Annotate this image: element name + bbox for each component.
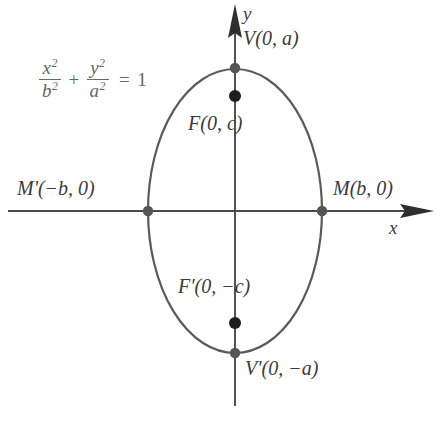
fraction-x-over-b: x2 b2: [39, 58, 61, 102]
denominator-b-exponent: 2: [52, 80, 58, 93]
point-co-vertex-left: [143, 206, 153, 216]
denominator-a: a2: [87, 79, 109, 101]
denominator-b: b2: [39, 79, 61, 101]
point-vertex-bottom: [230, 348, 240, 358]
point-co-vertex-right: [317, 206, 327, 216]
ellipse-equation: x2 b2 + y2 a2 = 1: [38, 58, 147, 102]
equals-sign: =: [119, 69, 130, 91]
equation-right-hand-side: 1: [137, 69, 147, 91]
label-vertex-bottom: V'(0, −a): [245, 358, 318, 378]
point-focus-top: [229, 90, 241, 102]
numerator-x: x2: [40, 58, 61, 79]
y-axis-arrowhead: [228, 4, 242, 38]
ellipse-figure: x2 b2 + y2 a2 = 1 V(0, a) F(0, c) F'(0, …: [0, 0, 447, 423]
numerator-y-base: y: [90, 57, 99, 78]
label-vertex-top: V(0, a): [243, 28, 299, 48]
label-focus-top: F(0, c): [188, 113, 242, 133]
y-axis-label: y: [243, 4, 251, 23]
label-co-vertex-left: M'(−b, 0): [17, 178, 95, 198]
denominator-a-base: a: [90, 81, 100, 102]
fraction-y-over-a: y2 a2: [87, 58, 109, 102]
point-focus-bottom: [229, 317, 241, 329]
label-focus-bottom: F'(0, −c): [178, 276, 250, 296]
denominator-b-base: b: [42, 81, 52, 102]
x-axis-arrowhead: [400, 204, 434, 218]
numerator-y: y2: [87, 58, 108, 79]
numerator-x-exponent: 2: [51, 57, 57, 70]
numerator-y-exponent: 2: [99, 57, 105, 70]
plus-operator: +: [68, 69, 79, 91]
denominator-a-exponent: 2: [100, 80, 106, 93]
point-vertex-top: [230, 63, 240, 73]
x-axis-label: x: [389, 218, 397, 237]
label-co-vertex-right: M(b, 0): [333, 178, 393, 198]
